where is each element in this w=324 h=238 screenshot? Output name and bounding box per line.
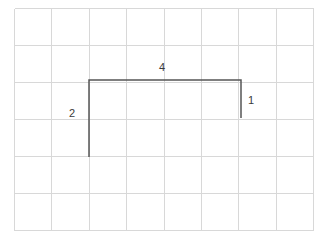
grid-and-shape-drawing: [0, 0, 324, 238]
figure-canvas: 2 4 1: [0, 0, 324, 238]
dimension-label-top: 4: [159, 62, 165, 73]
dimension-label-left: 2: [69, 108, 75, 119]
dimension-label-right: 1: [248, 95, 254, 106]
grid-lines: [15, 9, 314, 231]
